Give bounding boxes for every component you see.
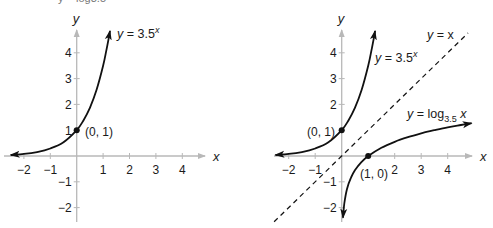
y-tick-label: 3 [330, 72, 337, 86]
curve-label: y = x [426, 28, 454, 42]
x-tick-label: 3 [418, 163, 425, 177]
y-axis-label: y [337, 11, 346, 26]
exponential-vs-log-chart: xy−2−1234−2−1234y = 3.5xy = xy = log3.5 … [274, 11, 487, 222]
y-tick-label: −1 [323, 175, 337, 189]
x-tick-label: −2 [17, 163, 31, 177]
y-tick-label: −2 [58, 201, 72, 215]
point-label: (0, 1) [307, 125, 335, 139]
marked-point [339, 127, 345, 133]
x-axis-label: x [479, 149, 487, 164]
exponential-chart: xy−2−11234−2−11234y = 3.5x(0, 1) [4, 11, 220, 222]
curve-label: y = log3.5 x [406, 107, 467, 124]
x-tick-label: 4 [179, 163, 186, 177]
marked-point [365, 153, 371, 159]
y-tick-label: 2 [65, 98, 72, 112]
y-tick-label: 3 [65, 72, 72, 86]
x-tick-label: 1 [100, 163, 107, 177]
x-axis-label: x [212, 149, 220, 164]
x-tick-label: −1 [43, 163, 57, 177]
point-label: (0, 1) [85, 125, 113, 139]
marked-point [74, 127, 80, 133]
cut-off-caption: y = log3.5 [58, 0, 106, 4]
y-tick-label: 4 [330, 46, 337, 60]
y-axis-label: y [72, 11, 81, 26]
y-tick-label: −2 [323, 201, 337, 215]
y-tick-label: −1 [58, 175, 72, 189]
y-tick-label: 2 [330, 98, 337, 112]
x-tick-label: 3 [153, 163, 160, 177]
x-tick-label: −2 [282, 163, 296, 177]
x-tick-label: 2 [391, 163, 398, 177]
x-tick-label: 2 [126, 163, 133, 177]
identity-line [274, 33, 468, 222]
figure-canvas: y = log3.5 xy−2−11234−2−11234y = 3.5x(0,… [0, 0, 493, 228]
curve-label: y = 3.5x [374, 49, 418, 65]
curve-label: y = 3.5x [116, 25, 160, 41]
x-tick-label: −1 [308, 163, 322, 177]
y-tick-label: 4 [65, 46, 72, 60]
point-label: (1, 0) [360, 167, 388, 181]
x-tick-label: 4 [444, 163, 451, 177]
